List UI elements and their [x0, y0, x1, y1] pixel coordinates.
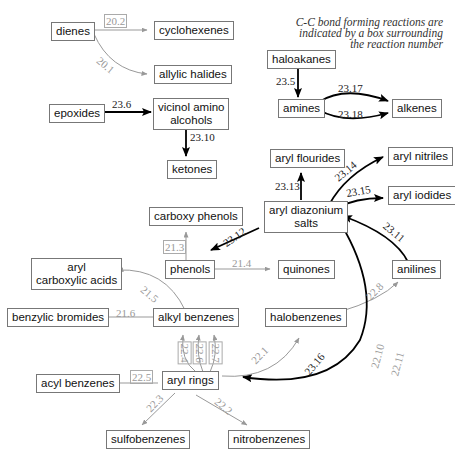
node-epoxides: epoxides	[49, 104, 105, 123]
node-phenols: phenols	[165, 260, 215, 279]
node-alkenes: alkenes	[392, 99, 442, 118]
node-label-line: aryl diazonium	[269, 204, 343, 217]
node-vicinol-amino-alcohols: vicinol amino alcohols	[153, 98, 229, 130]
node-halobenzenes: halobenzenes	[265, 308, 347, 327]
reaction-22-5: 22.5	[130, 370, 153, 384]
reaction-23-10: 23.10	[190, 131, 215, 143]
node-alkyl-benzenes: alkyl benzenes	[153, 308, 239, 327]
node-cyclohexenes: cyclohexenes	[154, 21, 234, 40]
legend-note: C-C bond forming reactions are indicated…	[296, 17, 443, 50]
node-sulfobenzenes: sulfobenzenes	[106, 430, 190, 449]
node-acyl-benzenes: acyl benzenes	[36, 374, 120, 393]
node-amines: amines	[278, 99, 325, 118]
node-nitrobenzenes: nitrobenzenes	[228, 430, 310, 449]
reaction-23-18: 23.18	[338, 108, 363, 120]
arrow-23-17	[319, 93, 388, 102]
reaction-21-4: 21.4	[232, 257, 251, 269]
node-aryl-diazonium-salts: aryl diazonium salts	[264, 201, 348, 233]
reaction-22-4: 22.4	[178, 341, 192, 364]
node-label-line: carboxylic acids	[36, 274, 117, 287]
reaction-23-6: 23.6	[112, 98, 131, 110]
node-carboxy-phenols: carboxy phenols	[149, 207, 243, 226]
reaction-22-6: 22.6	[193, 341, 207, 364]
reaction-diagram: C-C bond forming reactions are indicated…	[0, 0, 455, 456]
node-aryl-carboxylic-acids: aryl carboxylic acids	[31, 258, 122, 290]
node-label-line: vicinol amino	[158, 101, 224, 114]
node-aryl-nitriles: aryl nitriles	[388, 147, 453, 166]
node-benzylic-bromides: benzylic bromides	[7, 308, 109, 327]
node-aryl-flourides: aryl flourides	[270, 149, 345, 168]
node-ketones: ketones	[167, 160, 217, 179]
node-aryl-iodides: aryl iodides	[388, 186, 455, 205]
node-label-line: alcohols	[158, 114, 224, 127]
node-label-line: salts	[269, 217, 343, 230]
reaction-23-13: 23.13	[275, 180, 300, 192]
node-aryl-rings: aryl rings	[162, 371, 219, 390]
node-label-line: aryl	[36, 261, 117, 274]
reaction-21-6: 21.6	[116, 307, 135, 319]
node-anilines: anilines	[392, 260, 441, 279]
reaction-22-7: 22.7	[209, 341, 223, 364]
node-haloakanes: haloakanes	[267, 50, 336, 69]
node-dienes: dienes	[51, 22, 95, 41]
reaction-21-3: 21.3	[163, 240, 186, 254]
node-quinones: quinones	[278, 260, 335, 279]
reaction-23-5: 23.5	[276, 75, 295, 87]
reaction-23-17: 23.17	[338, 82, 363, 94]
reaction-20-2: 20.2	[104, 14, 127, 28]
legend-note-line: the reaction number	[296, 39, 443, 50]
node-allylic-halides: allylic halides	[154, 65, 232, 84]
